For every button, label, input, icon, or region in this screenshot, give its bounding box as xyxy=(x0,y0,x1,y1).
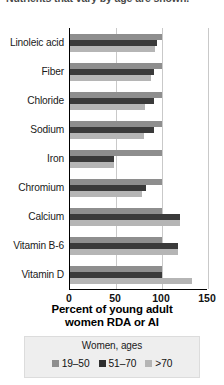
bar-group xyxy=(70,208,207,226)
y-axis-label: Chromium xyxy=(0,182,64,193)
y-axis-label: Linoleic acid xyxy=(0,37,64,48)
legend-swatch-icon xyxy=(52,360,59,367)
legend-title: Women, ages xyxy=(25,340,199,351)
caption-strip: Nutrients that vary by age are shown. xyxy=(0,0,224,11)
bar-group xyxy=(70,121,207,139)
legend-label: 51–70 xyxy=(109,358,137,369)
x-axis-title: Percent of young adult women RDA or AI xyxy=(0,303,224,328)
bar-group xyxy=(70,92,207,110)
bar xyxy=(70,249,178,255)
y-axis-label: Vitamin D xyxy=(0,269,64,280)
y-axis-label: Sodium xyxy=(0,124,64,135)
x-axis-title-line-1: Percent of young adult xyxy=(0,303,224,316)
legend-label: 19–50 xyxy=(62,358,90,369)
bar-group xyxy=(70,266,207,284)
legend-swatch-icon xyxy=(99,360,106,367)
bar-group xyxy=(70,63,207,81)
y-axis-label: Calcium xyxy=(0,211,64,222)
bar-group xyxy=(70,34,207,52)
legend-item[interactable]: 51–70 xyxy=(99,358,137,369)
legend: Women, ages 19–5051–70>70 xyxy=(24,336,200,378)
legend-swatch-icon xyxy=(145,360,152,367)
legend-label: >70 xyxy=(155,358,172,369)
y-axis-category-labels: Linoleic acidFiberChlorideSodiumIronChro… xyxy=(0,28,67,290)
bar xyxy=(70,162,114,168)
bar xyxy=(70,191,142,197)
legend-items: 19–5051–70>70 xyxy=(25,358,199,369)
caption-text: Nutrients that vary by age are shown. xyxy=(6,0,189,4)
bar-group xyxy=(70,150,207,168)
plot-area xyxy=(69,28,207,290)
chart-page: Nutrients that vary by age are shown. Li… xyxy=(0,0,224,385)
chart-plot-wrapper: Linoleic acidFiberChlorideSodiumIronChro… xyxy=(0,28,224,293)
y-axis-label: Vitamin B-6 xyxy=(0,240,64,251)
legend-item[interactable]: 19–50 xyxy=(52,358,90,369)
x-axis-title-line-2: women RDA or AI xyxy=(0,316,224,329)
y-axis-label: Iron xyxy=(0,153,64,164)
bar-group xyxy=(70,237,207,255)
bar xyxy=(70,75,151,81)
bar xyxy=(70,46,155,52)
y-axis-label: Fiber xyxy=(0,66,64,77)
legend-item[interactable]: >70 xyxy=(145,358,172,369)
bar xyxy=(70,104,145,110)
bar xyxy=(70,220,180,226)
gridline xyxy=(208,28,209,289)
y-axis-label: Chloride xyxy=(0,95,64,106)
bar xyxy=(70,133,144,139)
bar xyxy=(70,278,192,284)
bar-group xyxy=(70,179,207,197)
